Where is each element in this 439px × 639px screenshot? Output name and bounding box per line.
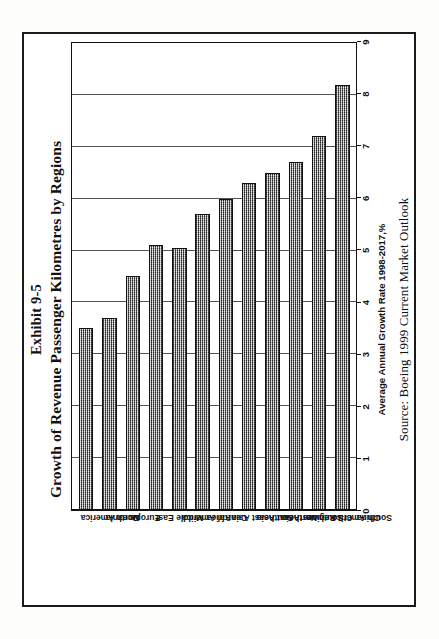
bar <box>289 162 303 510</box>
bar <box>102 318 116 510</box>
bar <box>149 245 163 510</box>
axis-tick-label: 3 <box>361 352 371 357</box>
axis-tick-label: 5 <box>361 248 371 253</box>
bar <box>265 173 279 510</box>
exhibit-label: Exhibit 9-5 <box>28 42 45 597</box>
bar <box>126 277 140 511</box>
scanned-page: Exhibit 9-5 Growth of Revenue Passenger … <box>0 0 439 639</box>
axis-tick-label: 1 <box>361 456 371 461</box>
figure-title-block: Exhibit 9-5 Growth of Revenue Passenger … <box>28 42 64 597</box>
bar-row <box>261 43 284 510</box>
axis-tick-label: 4 <box>361 300 371 305</box>
rotated-figure-wrapper: Exhibit 9-5 Growth of Revenue Passenger … <box>22 32 416 607</box>
bar <box>172 248 186 510</box>
value-axis: 0123456789 <box>357 42 373 511</box>
bar-row <box>74 43 97 510</box>
axis-tick-label: 7 <box>361 144 371 149</box>
bar-series <box>72 43 356 510</box>
bar-row <box>307 43 330 510</box>
category-axis: North AmericaOceaniaEuropeMiddle EastCen… <box>71 511 373 597</box>
bar <box>195 214 209 510</box>
axis-tick-label: 9 <box>361 39 371 44</box>
bar <box>242 183 256 510</box>
bar-row <box>284 43 307 510</box>
plot-area <box>71 42 357 511</box>
bar-row <box>214 43 237 510</box>
figure: Exhibit 9-5 Growth of Revenue Passenger … <box>22 32 416 607</box>
bar-row <box>168 43 191 510</box>
bar <box>79 328 93 510</box>
bar-row <box>331 43 354 510</box>
bar-row <box>121 43 144 510</box>
bar-row <box>191 43 214 510</box>
axis-tick-label: 2 <box>361 404 371 409</box>
bar <box>335 85 349 510</box>
bar-row <box>98 43 121 510</box>
plot-wrapper: 0123456789 <box>71 42 373 511</box>
chart-area: North AmericaOceaniaEuropeMiddle EastCen… <box>71 42 373 597</box>
category-label: China <box>357 513 439 522</box>
bar <box>312 136 326 510</box>
bar <box>219 199 233 510</box>
axis-tick-label: 8 <box>361 91 371 96</box>
chart-title: Growth of Revenue Passenger Kilometres b… <box>47 42 65 597</box>
axis-tick-label: 0 <box>361 508 371 513</box>
bar-row <box>144 43 167 510</box>
bar-row <box>238 43 261 510</box>
axis-tick-label: 6 <box>361 196 371 201</box>
